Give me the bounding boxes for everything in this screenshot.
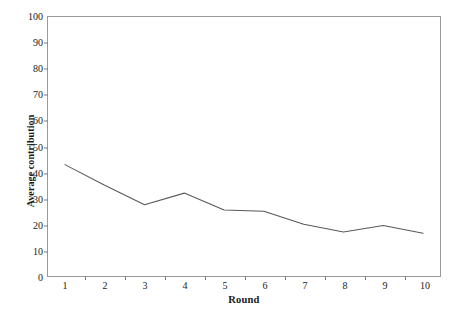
y-tick-mark [44,173,48,174]
y-tick-label: 70 [33,90,43,100]
y-tick-label: 20 [33,221,43,231]
plot-area: 010203040506070809010012345678910 [47,16,441,277]
y-tick-label: 50 [33,143,43,153]
line-series-svg [48,17,440,276]
chart-figure: Average contribution 0102030405060708090… [0,0,454,322]
x-tick-mark [125,276,126,280]
y-tick-label: 30 [33,195,43,205]
y-tick-mark [44,199,48,200]
y-tick-label: 0 [38,273,43,283]
data-line-average-contribution [65,165,423,234]
y-tick-mark [44,121,48,122]
x-tick-label: 9 [383,281,388,291]
y-tick-label: 80 [33,64,43,74]
x-tick-mark [245,276,246,280]
x-tick-mark [205,276,206,280]
y-tick-label: 60 [33,116,43,126]
x-tick-mark [165,276,166,280]
x-tick-label: 5 [223,281,228,291]
y-tick-label: 40 [33,169,43,179]
y-tick-label: 100 [28,12,43,22]
y-tick-label: 10 [33,247,43,257]
y-tick-label: 90 [33,38,43,48]
x-tick-mark [405,276,406,280]
y-axis-title: Average contribution [20,0,40,322]
x-tick-label: 7 [303,281,308,291]
x-tick-mark [285,276,286,280]
x-tick-label: 4 [183,281,188,291]
y-tick-mark [44,95,48,96]
x-tick-label: 6 [263,281,268,291]
x-tick-label: 8 [343,281,348,291]
x-tick-mark [85,276,86,280]
y-tick-mark [44,225,48,226]
y-tick-mark [44,69,48,70]
y-tick-mark [44,147,48,148]
x-axis-title: Round [47,294,441,305]
x-tick-label: 1 [63,281,68,291]
y-tick-mark [44,43,48,44]
x-tick-label: 3 [143,281,148,291]
x-tick-label: 2 [103,281,108,291]
x-tick-mark [365,276,366,280]
y-tick-mark [44,251,48,252]
x-tick-mark [325,276,326,280]
x-tick-label: 10 [420,281,430,291]
